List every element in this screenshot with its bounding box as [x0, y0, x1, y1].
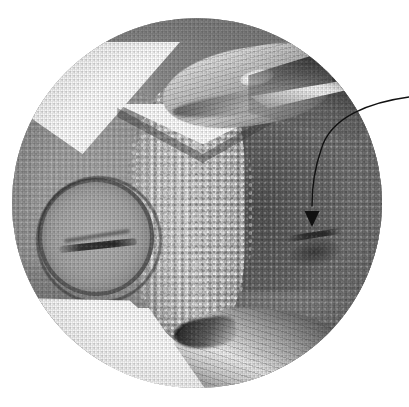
- annotation-layer: [0, 0, 409, 407]
- micrograph-figure: [0, 0, 409, 407]
- leader-line: [312, 97, 409, 206]
- arrowhead-icon: [305, 211, 320, 227]
